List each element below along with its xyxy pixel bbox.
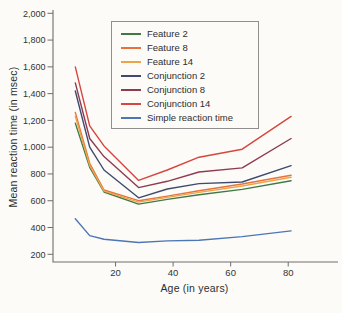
legend: Feature 2Feature 8Feature 14Conjunction … bbox=[111, 21, 259, 129]
x-tick-label: 20 bbox=[110, 267, 121, 278]
legend-line-swatch bbox=[121, 103, 141, 105]
legend-item-label: Feature 14 bbox=[147, 57, 193, 67]
y-tick-label: 1,000 bbox=[23, 142, 46, 152]
reaction-time-line-chart: Mean reaction time (in msec) 20040060080… bbox=[0, 0, 342, 313]
legend-item-conjunction-14: Conjunction 14 bbox=[121, 97, 252, 110]
legend-item-label: Conjunction 8 bbox=[147, 85, 205, 95]
y-tick-label: 1,200 bbox=[23, 116, 46, 126]
legend-line-swatch bbox=[121, 33, 141, 35]
legend-item-label: Conjunction 2 bbox=[147, 71, 205, 81]
series-line-simple-reaction-time bbox=[75, 219, 291, 243]
legend-item-label: Feature 2 bbox=[147, 29, 188, 39]
legend-line-swatch bbox=[121, 89, 141, 91]
legend-item-simple-reaction-time: Simple reaction time bbox=[121, 111, 252, 124]
legend-line-swatch bbox=[121, 117, 141, 119]
y-tick-label: 400 bbox=[30, 223, 45, 233]
legend-line-swatch bbox=[121, 75, 141, 77]
legend-line-swatch bbox=[121, 61, 141, 63]
y-tick-label: 200 bbox=[30, 250, 45, 260]
legend-item-feature-14: Feature 14 bbox=[121, 55, 252, 68]
x-axis-title: Age (in years) bbox=[53, 282, 336, 294]
y-tick-label: 1,600 bbox=[23, 62, 46, 72]
x-tick-label: 40 bbox=[168, 267, 179, 278]
x-tick-label: 60 bbox=[225, 267, 236, 278]
y-tick-label: 800 bbox=[30, 169, 45, 179]
x-tick-label: 80 bbox=[283, 267, 294, 278]
legend-item-feature-8: Feature 8 bbox=[121, 41, 252, 54]
legend-item-conjunction-8: Conjunction 8 bbox=[121, 83, 252, 96]
y-tick-label: 600 bbox=[30, 196, 45, 206]
legend-item-label: Conjunction 14 bbox=[147, 99, 210, 109]
y-tick-label: 2,000 bbox=[23, 9, 46, 19]
legend-item-feature-2: Feature 2 bbox=[121, 27, 252, 40]
y-tick-label: 1,800 bbox=[23, 35, 46, 45]
legend-line-swatch bbox=[121, 47, 141, 49]
legend-item-label: Feature 8 bbox=[147, 43, 188, 53]
legend-item-label: Simple reaction time bbox=[147, 113, 233, 123]
legend-item-conjunction-2: Conjunction 2 bbox=[121, 69, 252, 82]
y-tick-label: 1,400 bbox=[23, 89, 46, 99]
